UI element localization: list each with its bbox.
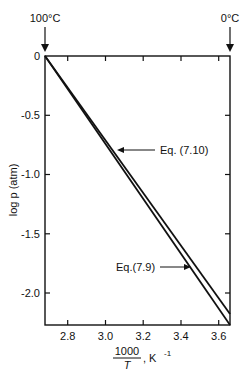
x-tick-label: 2.8 <box>60 330 75 342</box>
x-axis-label-denominator: T <box>124 359 132 371</box>
x-axis-label: 1000 T , K -1 <box>113 345 172 371</box>
x-ticks <box>68 56 219 325</box>
vapor-pressure-chart: 2.8 3.0 3.2 3.4 3.6 0 -0.5 -1.0 -1.5 -2.… <box>0 0 248 374</box>
y-tick-label: -2.0 <box>21 287 40 299</box>
arrow-down-icon <box>41 27 49 52</box>
x-tick-label: 3.0 <box>98 330 113 342</box>
annotation-100c: 100°C <box>30 12 61 24</box>
label-eq-7-9: Eq.(7.9) <box>116 261 155 273</box>
x-axis-label-unit: , K <box>143 352 157 364</box>
x-tick-label: 3.4 <box>173 330 188 342</box>
series-eq-7-10-line <box>45 56 230 314</box>
x-axis-label-unit-exp: -1 <box>164 349 172 358</box>
x-tick-label: 3.6 <box>211 330 226 342</box>
y-tick-label: -1.0 <box>21 168 40 180</box>
y-tick-label: -0.5 <box>21 109 40 121</box>
x-axis-label-numerator: 1000 <box>115 345 139 357</box>
y-axis-label: log p (atm) <box>7 164 19 217</box>
y-tick-label: -1.5 <box>21 228 40 240</box>
label-eq-7-10: Eq. (7.10) <box>160 144 208 156</box>
arrow-left-icon <box>117 147 155 153</box>
series-eq-7-9-line <box>45 56 230 325</box>
x-tick-label: 3.2 <box>136 330 151 342</box>
annotation-0c: 0°C <box>221 12 240 24</box>
y-tick-label: 0 <box>34 50 40 62</box>
arrow-right-icon <box>160 264 191 270</box>
arrow-down-icon <box>226 27 234 52</box>
